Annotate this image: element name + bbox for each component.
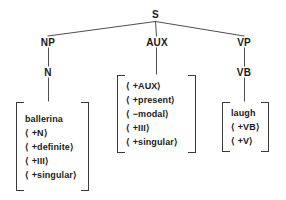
matrix-row: ⟨ +V⟩	[231, 134, 260, 148]
matrix-row: ⟨ +N⟩	[25, 126, 80, 140]
matrix-row: ⟨ +present⟩	[126, 93, 187, 107]
bracket-right-icon	[81, 102, 89, 191]
vp-feature-matrix: laugh ⟨ +VB⟩ ⟨ +V⟩	[222, 102, 269, 152]
bracket-left-icon	[16, 102, 24, 191]
node-aux: AUX	[146, 37, 168, 48]
branch-s-to-np	[48, 22, 156, 37]
bracket-left-icon	[117, 75, 125, 153]
node-vb: VB	[237, 67, 251, 78]
bracket-left-icon	[222, 102, 230, 152]
matrix-row: ⟨ +III⟩	[25, 154, 80, 168]
bracket-right-icon	[261, 102, 269, 152]
node-vp: VP	[237, 37, 251, 48]
np-feature-matrix: ballerina ⟨ +N⟩ ⟨ +definite⟩ ⟨ +III⟩ ⟨ +…	[16, 102, 89, 191]
branch-s-to-vp	[156, 22, 245, 37]
matrix-row: ⟨ +singular⟩	[126, 135, 187, 149]
matrix-row: ⟨ +AUX⟩	[126, 79, 187, 93]
matrix-row: ⟨ +VB⟩	[231, 120, 260, 134]
branch-s-to-aux	[156, 22, 157, 37]
node-n: N	[44, 67, 51, 78]
node-s: S	[152, 9, 159, 20]
bracket-right-icon	[188, 75, 196, 153]
matrix-row: ⟨ +definite⟩	[25, 140, 80, 154]
matrix-row: ⟨ −modal⟩	[126, 107, 187, 121]
aux-feature-matrix: ⟨ +AUX⟩ ⟨ +present⟩ ⟨ −modal⟩ ⟨ +III⟩ ⟨ …	[117, 75, 196, 153]
matrix-row: ⟨ +singular⟩	[25, 168, 80, 182]
matrix-row: ⟨ +III⟩	[126, 121, 187, 135]
node-np: NP	[41, 37, 55, 48]
diagram-canvas: S NP AUX VP N VB ballerina ⟨ +N⟩ ⟨ +defi…	[0, 0, 286, 200]
matrix-row: laugh	[231, 106, 260, 120]
matrix-row: ballerina	[25, 112, 80, 126]
